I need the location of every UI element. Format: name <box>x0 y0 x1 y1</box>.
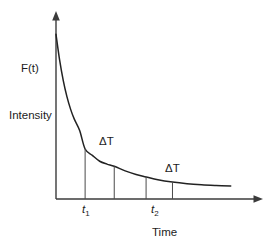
delta-t-label-first: ΔT <box>99 136 114 148</box>
x-tick-label-t1: t1 <box>82 204 90 216</box>
decay-curve-path <box>56 34 231 186</box>
x-axis-title: Time <box>152 227 177 239</box>
y-axis-arrowhead-icon <box>52 11 60 21</box>
x-tick-label-t1-subscript: 1 <box>85 209 89 218</box>
delta-t-label-second: ΔT <box>165 163 180 175</box>
curve-label-ft: F(t) <box>21 63 39 75</box>
chart-canvas <box>0 0 278 250</box>
y-axis-title: Intensity <box>9 110 52 122</box>
x-tick-label-t2-subscript: 2 <box>154 209 158 218</box>
x-axis-arrowhead-icon <box>254 195 264 203</box>
decay-chart-figure: F(t) Intensity ΔT ΔT t1 t2 Time <box>0 0 278 250</box>
x-tick-label-t2: t2 <box>151 204 159 216</box>
